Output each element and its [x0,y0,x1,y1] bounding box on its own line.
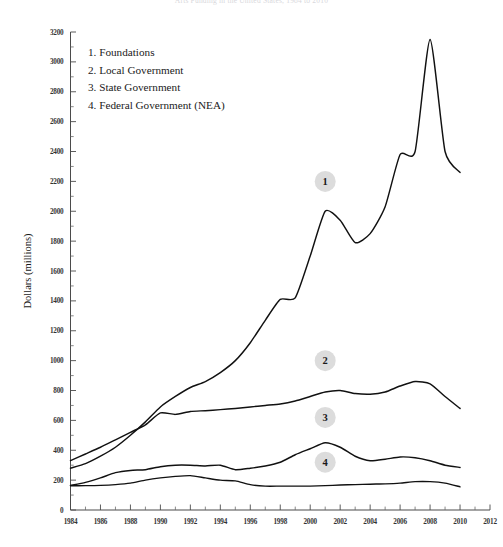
series-marker-1: 1 [315,171,336,192]
x-tick-label: 1986 [94,518,108,526]
y-tick-label: 1400 [50,297,64,305]
legend-label: Foundations [99,46,154,58]
legend-number: 3. [88,81,96,93]
y-tick-label: 3000 [50,58,64,66]
chart-legend: 1. Foundations 2. Local Government 3. St… [88,44,225,114]
x-tick-label: 1998 [273,518,287,526]
x-tick-label: 1996 [243,518,257,526]
arts-funding-line-chart: Arts Funding in the United States, 1984 … [0,0,503,547]
x-tick-label: 2010 [453,518,467,526]
legend-number: 4. [88,99,96,111]
legend-item-foundations: 1. Foundations [88,44,225,62]
legend-item-local-government: 2. Local Government [88,62,225,80]
series-marker-2: 2 [315,350,336,371]
chart-canvas: 0200400600800100012001400160018002000220… [0,0,503,547]
x-tick-label: 1988 [124,518,138,526]
y-tick-label: 1000 [50,357,64,365]
y-tick-label: 2800 [50,88,64,96]
legend-label: Federal Government (NEA) [99,99,225,111]
legend-label: State Government [99,81,180,93]
legend-number: 2. [88,64,96,76]
x-tick-label: 1992 [184,518,198,526]
series-line-federal-government-nea [71,476,461,487]
y-tick-label: 2200 [50,178,64,186]
y-tick-label: 400 [53,447,64,455]
x-tick-label: 2008 [423,518,437,526]
x-tick-label: 2004 [363,518,377,526]
y-tick-label: 1200 [50,327,64,335]
y-tick-label: 1800 [50,238,64,246]
y-tick-label: 600 [53,417,64,425]
y-tick-label: 2600 [50,118,64,126]
x-tick-label: 2012 [483,518,497,526]
y-tick-label: 0 [60,507,64,515]
x-tick-label: 1990 [154,518,168,526]
y-tick-label: 3200 [50,29,64,37]
series-marker-number: 4 [323,457,329,468]
y-tick-label: 200 [53,477,64,485]
y-axis-title: Dollars (millions) [22,233,34,308]
legend-number: 1. [88,46,96,58]
x-tick-label: 2002 [333,518,347,526]
series-line-local-government [71,382,461,461]
legend-label: Local Government [99,64,183,76]
series-marker-4: 4 [315,452,336,473]
y-tick-label: 2000 [50,208,64,216]
x-tick-label: 1994 [214,518,228,526]
legend-item-state-government: 3. State Government [88,79,225,97]
legend-item-federal-government: 4. Federal Government (NEA) [88,97,225,115]
y-tick-label: 1600 [50,268,64,276]
x-tick-label: 2006 [393,518,407,526]
y-tick-label: 800 [53,387,64,395]
y-tick-label: 2400 [50,148,64,156]
series-marker-number: 2 [323,355,328,366]
series-marker-number: 3 [323,412,328,423]
series-line-state-government [71,443,461,486]
x-tick-label: 2000 [303,518,317,526]
series-marker-number: 1 [323,176,328,187]
series-marker-3: 3 [315,407,336,428]
x-tick-label: 1984 [64,518,78,526]
